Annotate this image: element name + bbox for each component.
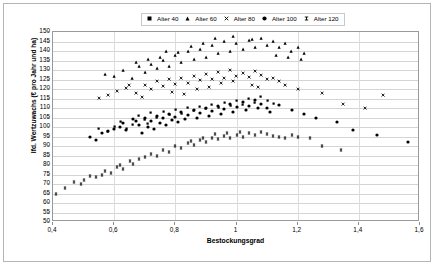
y-tick-label: 60 xyxy=(6,199,50,205)
data-point-alter-40 xyxy=(137,114,140,117)
data-point-alter-80 xyxy=(234,74,238,78)
data-point-alter-80 xyxy=(219,81,223,85)
data-point-alter-100 xyxy=(228,102,232,106)
data-points-layer xyxy=(53,32,418,220)
data-point-alter-80 xyxy=(341,102,345,106)
data-point-alter-40 xyxy=(149,111,152,114)
data-point-alter-100 xyxy=(204,106,208,110)
data-point-alter-100 xyxy=(256,106,260,110)
y-tick-mark xyxy=(47,145,50,146)
data-point-alter-120 xyxy=(109,171,113,175)
data-point-alter-80 xyxy=(265,77,269,81)
data-point-alter-60 xyxy=(274,53,278,57)
data-point-alter-80 xyxy=(170,90,174,94)
legend-item-alter-40[interactable]: Alter 40 xyxy=(147,16,178,23)
data-point-alter-60 xyxy=(179,60,183,64)
x-axis-ticks: 0,40,60,811,21,41,6 xyxy=(52,222,419,238)
y-tick-label: 65 xyxy=(6,190,50,196)
data-point-alter-80 xyxy=(210,77,214,81)
data-point-alter-120 xyxy=(179,146,183,150)
data-point-alter-120 xyxy=(271,134,275,138)
legend-item-alter-80[interactable]: Alter 80 xyxy=(224,16,255,23)
y-tick-mark xyxy=(47,117,50,118)
data-point-alter-120 xyxy=(308,136,312,140)
data-point-alter-60 xyxy=(216,51,220,55)
y-tick-mark xyxy=(47,202,50,203)
data-point-alter-80 xyxy=(247,75,251,79)
x-tick-label: 0,4 xyxy=(37,227,67,233)
data-point-alter-100 xyxy=(253,98,257,102)
data-point-alter-80 xyxy=(207,85,211,89)
chart-screenshot: Alter 40Alter 60Alter 80Alter 100Alter 1… xyxy=(0,0,436,267)
data-point-alter-60 xyxy=(112,74,116,78)
y-tick-label: 95 xyxy=(6,133,50,139)
legend-label: Alter 80 xyxy=(234,16,255,22)
data-point-alter-120 xyxy=(283,136,287,140)
x-tick-mark xyxy=(174,222,175,225)
data-point-alter-80 xyxy=(363,106,367,110)
legend-item-alter-60[interactable]: Alter 60 xyxy=(185,16,216,23)
data-point-alter-100 xyxy=(186,113,190,117)
data-point-alter-120 xyxy=(79,182,83,186)
x-tick-label: 0,8 xyxy=(159,227,189,233)
y-tick-mark xyxy=(47,183,50,184)
data-point-alter-100 xyxy=(146,125,150,129)
data-point-alter-120 xyxy=(189,139,193,143)
chart-frame: Alter 40Alter 60Alter 80Alter 100Alter 1… xyxy=(3,3,431,262)
data-point-alter-100 xyxy=(198,111,202,115)
data-point-alter-60 xyxy=(189,44,193,48)
data-point-alter-80 xyxy=(216,70,220,74)
data-point-alter-100 xyxy=(176,120,180,124)
data-point-alter-80 xyxy=(143,83,147,87)
data-point-alter-120 xyxy=(238,130,242,134)
y-tick-label: 100 xyxy=(6,123,50,129)
data-point-alter-100 xyxy=(112,127,116,131)
y-tick-label: 125 xyxy=(6,76,50,82)
data-point-alter-80 xyxy=(182,92,186,96)
data-point-alter-60 xyxy=(234,41,238,45)
data-point-alter-120 xyxy=(216,137,220,141)
data-point-alter-100 xyxy=(222,107,226,111)
data-point-alter-80 xyxy=(140,95,144,99)
y-tick-mark xyxy=(47,88,50,89)
y-tick-mark xyxy=(47,212,50,213)
y-tick-mark xyxy=(47,50,50,51)
cross-marker-icon xyxy=(224,16,231,23)
data-point-alter-60 xyxy=(283,41,287,45)
data-point-alter-60 xyxy=(198,47,202,51)
data-point-alter-60 xyxy=(164,49,168,53)
data-point-alter-60 xyxy=(286,55,290,59)
data-point-alter-60 xyxy=(134,60,138,64)
x-tick-mark xyxy=(52,222,53,225)
data-point-alter-100 xyxy=(100,131,104,135)
data-point-alter-120 xyxy=(210,136,214,140)
x-tick-mark xyxy=(419,222,420,225)
data-point-alter-60 xyxy=(121,68,125,72)
data-point-alter-80 xyxy=(381,93,385,97)
data-point-alter-60 xyxy=(228,49,232,53)
x-tick-label: 1 xyxy=(221,227,251,233)
data-point-alter-100 xyxy=(152,127,156,131)
data-point-alter-60 xyxy=(271,39,275,43)
data-point-alter-40 xyxy=(174,108,177,111)
data-point-alter-60 xyxy=(204,55,208,59)
data-point-alter-100 xyxy=(155,114,159,118)
data-point-alter-80 xyxy=(231,79,235,83)
x-tick-mark xyxy=(113,222,114,225)
legend-item-alter-120[interactable]: Alter 120 xyxy=(304,16,339,23)
data-point-alter-60 xyxy=(186,49,190,53)
data-point-alter-40 xyxy=(259,95,262,98)
data-point-alter-100 xyxy=(140,131,144,135)
data-point-alter-120 xyxy=(320,144,324,148)
data-point-alter-40 xyxy=(162,110,165,113)
y-tick-label: 70 xyxy=(6,180,50,186)
legend-item-alter-100[interactable]: Alter 100 xyxy=(262,16,297,23)
data-point-alter-80 xyxy=(320,91,324,95)
data-point-alter-120 xyxy=(63,186,67,190)
data-point-alter-100 xyxy=(106,129,110,133)
y-tick-label: 140 xyxy=(6,47,50,53)
data-point-alter-60 xyxy=(130,76,134,80)
data-point-alter-60 xyxy=(277,45,281,49)
data-point-alter-100 xyxy=(167,112,171,116)
data-point-alter-120 xyxy=(228,136,232,140)
